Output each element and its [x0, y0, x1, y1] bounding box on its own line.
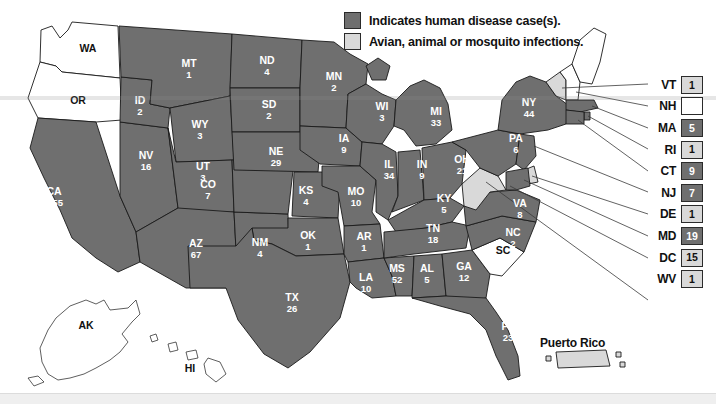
- callout-row-md[interactable]: MD 19: [650, 225, 714, 247]
- callout-value-dc: 15: [681, 249, 703, 267]
- state-label-wy: WY: [192, 118, 209, 130]
- callout-row-ma[interactable]: MA 5: [650, 117, 714, 139]
- callout-row-vt[interactable]: VT 1: [650, 74, 714, 96]
- state-value-ky: 5: [441, 204, 447, 215]
- state-value-sd: 2: [266, 110, 271, 121]
- territory-shape-puerto-rico[interactable]: [546, 350, 625, 368]
- state-label-ga: GA: [456, 260, 472, 272]
- callout-abbr-de: DE: [650, 207, 676, 221]
- callout-abbr-ri: RI: [650, 143, 676, 157]
- legend-label-avian: Avian, animal or mosquito infections.: [369, 35, 583, 49]
- state-value-az: 67: [191, 249, 202, 260]
- legend-item-avian: Avian, animal or mosquito infections.: [344, 33, 612, 50]
- callout-abbr-wv: WV: [650, 272, 676, 286]
- callout-abbr-vt: VT: [650, 78, 676, 92]
- state-label-ks: KS: [299, 184, 314, 196]
- legend-item-human-case: Indicates human disease case(s).: [344, 12, 612, 29]
- state-label-wi: WI: [376, 100, 389, 112]
- state-label-in: IN: [417, 158, 428, 170]
- bottom-edge-band: [0, 393, 716, 404]
- state-label-ak: AK: [78, 319, 94, 331]
- state-value-mt: 1: [186, 69, 192, 80]
- state-label-nv: NV: [139, 149, 154, 161]
- callout-abbr-nh: NH: [650, 99, 676, 113]
- state-label-fl: FL: [502, 320, 515, 332]
- state-value-fl: 23: [503, 332, 514, 343]
- state-value-ok: 1: [305, 241, 311, 252]
- callout-row-nh[interactable]: NH: [650, 96, 714, 118]
- state-label-ky: KY: [437, 192, 452, 204]
- state-label-al: AL: [420, 262, 435, 274]
- state-label-ia: IA: [339, 132, 350, 144]
- callout-row-nj[interactable]: NJ 7: [650, 182, 714, 204]
- state-value-tn: 18: [428, 234, 439, 245]
- state-shape-hi[interactable]: [150, 334, 226, 382]
- state-shape-wi[interactable]: [346, 84, 396, 144]
- callout-value-ct: 9: [681, 162, 703, 180]
- state-shape-ct[interactable]: [566, 110, 584, 124]
- state-label-nc: NC: [505, 226, 521, 238]
- state-label-nm: NM: [252, 236, 269, 248]
- state-value-in: 9: [419, 170, 424, 181]
- callout-row-ri[interactable]: RI 1: [650, 139, 714, 161]
- state-value-ca: 155: [47, 197, 64, 208]
- state-shape-md[interactable]: [506, 168, 530, 190]
- state-label-wa: WA: [80, 42, 97, 54]
- state-label-oh: OH: [454, 153, 470, 165]
- callout-row-wv[interactable]: WV 1: [650, 268, 714, 290]
- callout-value-nj: 7: [681, 184, 703, 202]
- state-label-la: LA: [359, 271, 373, 283]
- callout-abbr-md: MD: [650, 229, 676, 243]
- state-label-co: CO: [200, 178, 216, 190]
- state-label-ut: UT: [196, 160, 211, 172]
- callout-abbr-dc: DC: [650, 251, 676, 265]
- state-value-co: 7: [205, 190, 210, 201]
- state-value-mi: 33: [431, 117, 442, 128]
- state-value-nc: 2: [510, 238, 515, 249]
- state-value-il: 34: [384, 170, 395, 181]
- state-label-mi: MI: [430, 105, 442, 117]
- state-label-va: VA: [513, 197, 527, 209]
- state-label-az: AZ: [189, 237, 204, 249]
- state-value-va: 8: [517, 209, 522, 220]
- human-case-swatch-icon: [344, 12, 361, 29]
- callout-row-de[interactable]: DE 1: [650, 204, 714, 226]
- state-value-ms: 52: [392, 274, 403, 285]
- puerto-rico-label: Puerto Rico: [540, 336, 605, 350]
- map-legend: Indicates human disease case(s). Avian, …: [344, 12, 612, 54]
- state-value-nd: 4: [264, 66, 270, 77]
- state-value-ia: 9: [341, 144, 346, 155]
- scanline-artifact: [0, 96, 716, 100]
- state-value-wy: 3: [197, 130, 202, 141]
- state-label-mn: MN: [326, 70, 342, 82]
- state-label-ne: NE: [269, 145, 284, 157]
- state-label-il: IL: [384, 158, 394, 170]
- callout-value-ri: 1: [681, 141, 703, 159]
- state-value-mn: 2: [331, 82, 336, 93]
- callout-row-ct[interactable]: CT 9: [650, 160, 714, 182]
- state-value-ne: 29: [271, 157, 282, 168]
- small-states-callout-list: VT 1 NH MA 5 RI 1 CT 9 NJ 7 DE 1 MD 19: [650, 74, 714, 290]
- legend-label-human-case: Indicates human disease case(s).: [369, 14, 561, 28]
- callout-value-ma: 5: [681, 119, 703, 137]
- state-value-mo: 10: [351, 197, 362, 208]
- state-value-pa: 6: [513, 144, 518, 155]
- state-label-mo: MO: [348, 185, 365, 197]
- callout-value-vt: 1: [681, 76, 703, 94]
- state-value-oh: 21: [457, 165, 468, 176]
- callout-value-md: 19: [681, 227, 703, 245]
- state-shape-sd[interactable]: [230, 88, 300, 132]
- state-value-wi: 3: [379, 112, 384, 123]
- callout-abbr-nj: NJ: [650, 186, 676, 200]
- state-value-ga: 12: [459, 272, 470, 283]
- state-shape-ri[interactable]: [584, 112, 590, 120]
- state-label-ca: CA: [46, 185, 62, 197]
- callout-value-nh: [681, 97, 703, 115]
- state-shape-ak[interactable]: [28, 300, 140, 386]
- callout-row-dc[interactable]: DC 15: [650, 247, 714, 269]
- state-label-pa: PA: [509, 132, 523, 144]
- callout-abbr-ct: CT: [650, 164, 676, 178]
- state-label-ms: MS: [389, 262, 405, 274]
